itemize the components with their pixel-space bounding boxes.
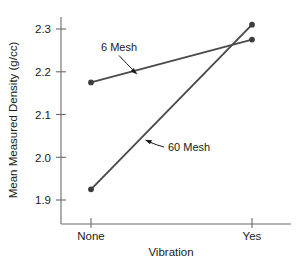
- data-point-60-mesh-yes: [249, 22, 255, 28]
- series-annotation-60-mesh: 60 Mesh: [168, 141, 210, 153]
- data-point-6-mesh-yes: [249, 37, 255, 43]
- y-tick-label-5: 2.3: [35, 23, 51, 35]
- y-tick-label-1: 1.9: [35, 194, 51, 206]
- leader-line-6-mesh: [119, 56, 135, 72]
- chart-figure: 1.9 2.0 2.1 2.2 2.3 None Yes Vibration M…: [0, 0, 307, 262]
- interaction-plot: 1.9 2.0 2.1 2.2 2.3 None Yes Vibration M…: [0, 0, 307, 262]
- data-point-6-mesh-none: [88, 80, 94, 86]
- data-point-60-mesh-none: [88, 186, 94, 192]
- y-axis-title: Mean Measured Density (g/cc): [7, 42, 19, 199]
- y-tick-label-2: 2.0: [35, 152, 51, 164]
- series-annotation-6-mesh: 6 Mesh: [101, 41, 137, 53]
- x-axis-title: Vibration: [148, 246, 193, 258]
- x-tick-label-1: None: [77, 230, 105, 242]
- y-tick-label-3: 2.1: [35, 109, 51, 121]
- x-tick-label-2: Yes: [243, 230, 262, 242]
- y-tick-label-4: 2.2: [35, 66, 51, 78]
- leader-arrowhead-60-mesh: [145, 140, 152, 145]
